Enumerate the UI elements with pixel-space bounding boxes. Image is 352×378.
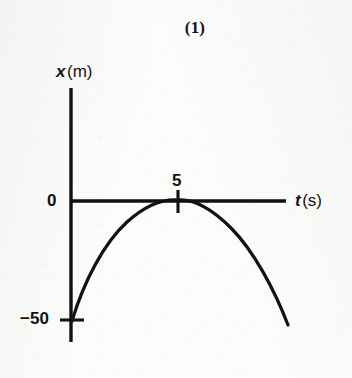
figure-canvas: (1) x(m) t(s) 0 5 −50	[0, 0, 352, 378]
x-axis-label: t(s)	[295, 192, 322, 209]
position-curve	[72, 200, 288, 325]
x-axis-unit: (s)	[302, 191, 322, 210]
y-tick-label-0: 0	[47, 192, 56, 209]
y-axis-label: x(m)	[56, 63, 92, 80]
y-axis-unit: (m)	[67, 62, 92, 81]
y-tick-label-neg50: −50	[20, 310, 49, 327]
x-tick-label-5: 5	[172, 172, 181, 189]
y-axis-variable: x	[56, 62, 67, 81]
